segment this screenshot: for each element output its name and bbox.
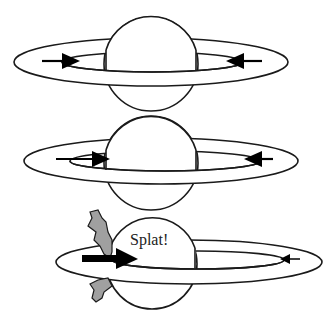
planet-ring-diagram: Splat! xyxy=(0,0,334,319)
splat-debris-bottom xyxy=(90,278,112,302)
splat-label: Splat! xyxy=(130,231,168,249)
panel-1 xyxy=(14,17,288,111)
panel-2 xyxy=(24,116,298,210)
panel-3: Splat! xyxy=(56,210,322,309)
planet-top-cover xyxy=(106,117,196,165)
planet-top-cover xyxy=(106,17,196,64)
